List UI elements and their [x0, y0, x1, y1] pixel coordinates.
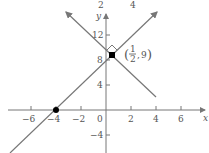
top-fragment-label: 2	[98, 0, 104, 10]
svg-text:(: (	[124, 47, 129, 62]
svg-text:,: ,	[137, 50, 140, 60]
chart-canvas: 2 4 x y −6 −4 −2 0 2 4 6 12 8 4 −4 ( 1	[0, 0, 209, 153]
x-tick-label: −2	[72, 114, 85, 124]
x-axis-label: x	[203, 113, 208, 123]
y-tick-label: −4	[90, 130, 104, 140]
line-series-1	[10, 12, 157, 153]
x-tick-label: −6	[22, 114, 36, 124]
x-tick-label: 2	[128, 114, 134, 124]
x-tick-label: 0	[97, 114, 103, 124]
y-tick-label: 4	[97, 80, 103, 90]
intersection-point	[109, 52, 115, 58]
svg-text:2: 2	[130, 54, 136, 64]
svg-text:1: 1	[130, 44, 136, 54]
y-axis-label: y	[95, 11, 102, 21]
right-angle-marker	[107, 45, 117, 50]
x-tick-label: 6	[178, 114, 184, 124]
y-tick-label: 8	[97, 55, 103, 65]
top-fragment-label: 4	[130, 0, 136, 10]
x-intercept-point	[53, 107, 59, 113]
svg-text:): )	[147, 47, 152, 62]
x-tick-label: 4	[153, 114, 159, 124]
point-label: ( 1 2 , 9 )	[124, 44, 152, 64]
